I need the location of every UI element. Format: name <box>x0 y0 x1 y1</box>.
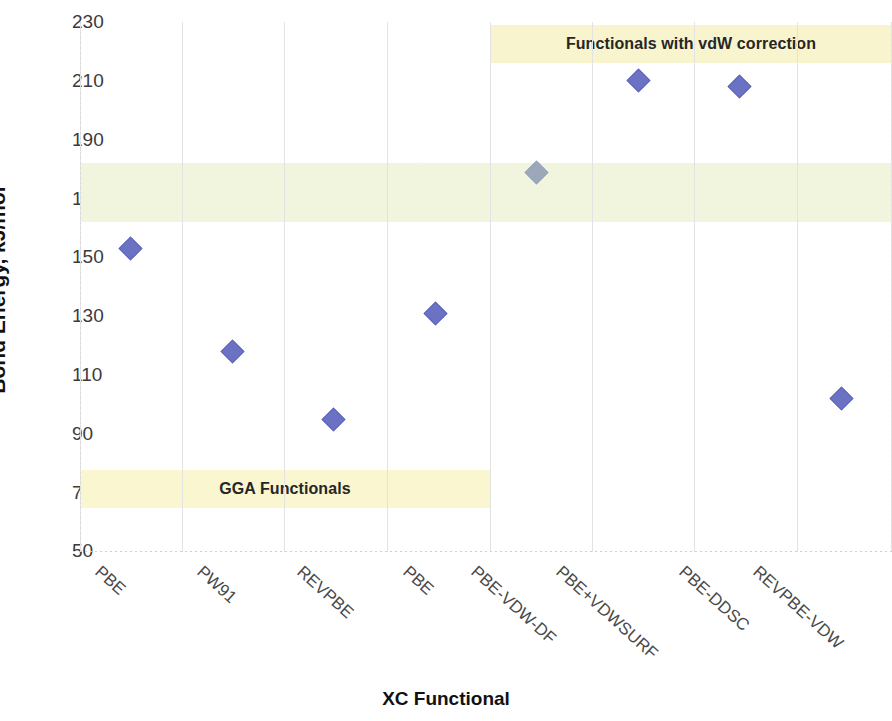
gridline-v-7 <box>797 22 798 552</box>
data-point-pbe-vdwsurf[interactable] <box>626 69 650 93</box>
x-tick-pbe: PBE <box>91 562 130 600</box>
plot-area: Functionals with vdW correction GGA Func… <box>80 22 892 552</box>
gridline-v-3 <box>387 22 388 552</box>
chart-figure: Bond Energy, kJ/mol 230 210 190 170 150 … <box>0 0 892 721</box>
x-tick-pbe-ddsc: PBE-DDSC <box>675 562 754 636</box>
vdw-functionals-band: Functionals with vdW correction <box>490 25 892 63</box>
data-point-pbe-ddsc[interactable] <box>728 75 752 99</box>
x-tick-pbe-vdw-df: PBE-VDW-DF <box>467 562 560 649</box>
data-point-pw91[interactable] <box>220 340 244 364</box>
experimental-reference-band <box>80 163 892 222</box>
gridline-v-2 <box>284 22 285 552</box>
x-tick-pbe-2: PBE <box>399 562 438 600</box>
x-tick-pw91: PW91 <box>193 562 241 608</box>
data-point-revpbe[interactable] <box>322 407 346 431</box>
gridline-v-6 <box>694 22 695 552</box>
gga-functionals-band: GGA Functionals <box>80 470 490 508</box>
gridline-v-1 <box>182 22 183 552</box>
data-point-revpbe-vdw[interactable] <box>829 387 853 411</box>
y-axis-title: Bond Energy, kJ/mol <box>0 186 10 393</box>
y-axis-line <box>80 22 81 552</box>
x-tick-revpbe: REVPBE <box>293 562 358 623</box>
gridline-v-5 <box>592 22 593 552</box>
x-axis-line <box>80 551 892 552</box>
x-tick-pbe-vdwsurf: PBE+VDWSURF <box>552 562 662 664</box>
x-axis-title: XC Functional <box>0 688 892 710</box>
gridline-v-4 <box>490 22 491 552</box>
data-point-pbe[interactable] <box>119 237 143 261</box>
vdw-functionals-band-label: Functionals with vdW correction <box>566 35 816 53</box>
x-tick-revpbe-vdw: REVPBE-VDW <box>749 562 847 653</box>
data-point-pbe-2[interactable] <box>423 301 447 325</box>
